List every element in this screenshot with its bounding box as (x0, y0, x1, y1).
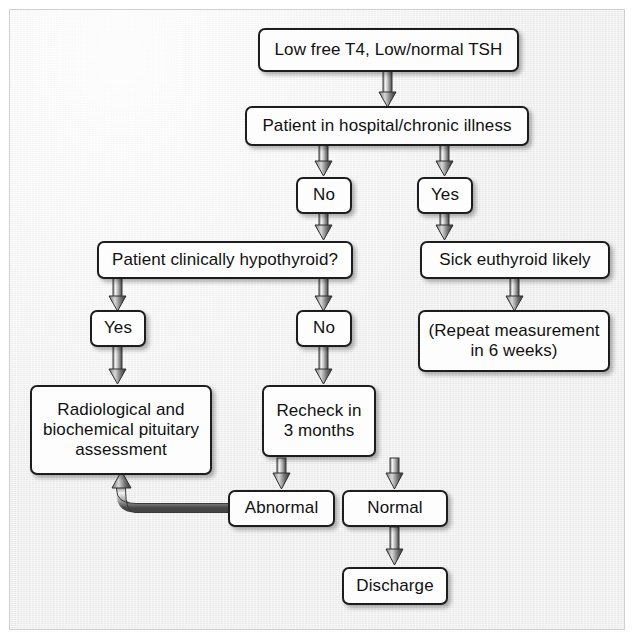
node-hospital-label: Patient in hospital/chronic illness (262, 116, 511, 136)
node-hypothyroid[interactable]: Patient clinically hypothyroid? (97, 241, 353, 279)
node-hospital-no-label: No (313, 185, 335, 205)
node-abnormal-label: Abnormal (245, 498, 319, 518)
node-hospital-yes-label: Yes (431, 185, 459, 205)
node-abnormal[interactable]: Abnormal (228, 490, 335, 527)
node-start[interactable]: Low free T4, Low/normal TSH (258, 28, 519, 72)
node-pituitary-assessment[interactable]: Radiological and biochemical pituitary a… (30, 385, 212, 475)
node-hypo-yes[interactable]: Yes (90, 310, 146, 347)
node-discharge-label: Discharge (356, 576, 433, 596)
node-hypo-yes-label: Yes (104, 318, 132, 338)
node-pituitary-assessment-label: Radiological and biochemical pituitary a… (43, 400, 199, 460)
node-sick-euthyroid-label: Sick euthyroid likely (439, 250, 590, 270)
node-normal[interactable]: Normal (342, 490, 448, 527)
node-discharge[interactable]: Discharge (342, 567, 448, 605)
node-repeat-measurement-label: (Repeat measurement in 6 weeks) (428, 321, 599, 361)
node-hospital-yes[interactable]: Yes (417, 177, 473, 214)
node-hypo-no[interactable]: No (296, 310, 352, 347)
node-hospital-no[interactable]: No (296, 177, 352, 214)
node-recheck[interactable]: Recheck in 3 months (262, 385, 376, 457)
node-normal-label: Normal (367, 498, 422, 518)
node-hypo-no-label: No (313, 318, 335, 338)
node-recheck-label: Recheck in 3 months (276, 401, 361, 441)
node-start-label: Low free T4, Low/normal TSH (275, 40, 503, 60)
flowchart-canvas: Low free T4, Low/normal TSH Patient in h… (0, 0, 635, 640)
node-repeat-measurement[interactable]: (Repeat measurement in 6 weeks) (418, 310, 610, 372)
node-hospital[interactable]: Patient in hospital/chronic illness (245, 106, 529, 146)
node-hypothyroid-label: Patient clinically hypothyroid? (112, 250, 338, 270)
node-sick-euthyroid[interactable]: Sick euthyroid likely (420, 241, 610, 279)
